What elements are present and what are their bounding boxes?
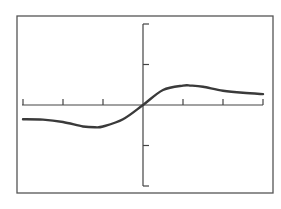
graph-plot (0, 0, 281, 209)
